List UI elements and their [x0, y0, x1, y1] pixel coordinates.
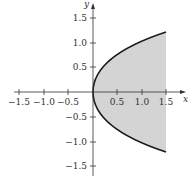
x-tick-label: 1.0: [135, 97, 150, 107]
y-axis-label: y: [83, 0, 90, 9]
x-tick-label: −1.0: [33, 97, 55, 107]
y-tick-label: 0.5: [73, 62, 88, 72]
y-tick-label: −1.0: [65, 137, 87, 147]
x-tick-label: 0.5: [110, 97, 125, 107]
y-tick-label: 1.0: [73, 38, 88, 48]
x-axis-label: x: [183, 94, 188, 104]
y-tick-label: 1.5: [73, 13, 88, 23]
y-axis-arrow-icon: [91, 3, 95, 9]
x-tick-label: 1.5: [159, 97, 174, 107]
x-tick-label: −1.5: [8, 97, 30, 107]
y-tick-label: −1.5: [65, 161, 87, 171]
x-tick-label: −0.5: [57, 97, 79, 107]
y-tick-label: −0.5: [65, 112, 87, 122]
chart: −1.5 −1.0 −0.5 0.5 1.0 1.5 1.5 1.0 0.5 −…: [0, 0, 191, 184]
